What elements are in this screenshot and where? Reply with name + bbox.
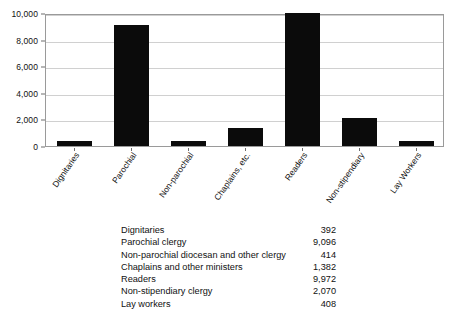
y-axis-tick-label: 2,000 <box>16 116 38 125</box>
table-row: Lay workers408 <box>121 298 336 310</box>
table-cell-label: Non-stipendiary clergy <box>121 285 310 297</box>
table-row: Chaplains and other ministers1,382 <box>121 261 336 273</box>
table-row: Non-parochial diocesan and other clergy4… <box>121 249 336 261</box>
x-axis-tick-label-text: Non-parochial <box>157 151 195 200</box>
table-cell-label: Dignitaries <box>121 224 310 236</box>
gridline <box>46 95 443 96</box>
table-cell-label: Readers <box>121 273 310 285</box>
y-axis-tick-label: 8,000 <box>16 36 38 45</box>
y-axis-tick-label: 4,000 <box>16 90 38 99</box>
table-cell-value: 2,070 <box>310 285 336 297</box>
table-cell-label: Parochial clergy <box>121 236 310 248</box>
y-axis-tick-label: 10,000 <box>11 10 38 19</box>
x-axis-tick-label-text: Parochial <box>110 151 138 185</box>
gridline <box>46 68 443 69</box>
bar <box>285 13 319 146</box>
table-cell-label: Lay workers <box>121 298 310 310</box>
table-row: Dignitaries392 <box>121 224 336 236</box>
table-cell-value: 1,382 <box>310 261 336 273</box>
table-row: Readers9,972 <box>121 273 336 285</box>
table-cell-value: 9,972 <box>310 273 336 285</box>
bar-chart-figure: 02,0004,0006,0008,00010,000 DignitariesP… <box>0 0 460 215</box>
table-row: Non-stipendiary clergy2,070 <box>121 285 336 297</box>
gridline <box>46 42 443 43</box>
table-cell-label: Non-parochial diocesan and other clergy <box>121 249 310 261</box>
table-cell-value: 392 <box>310 224 336 236</box>
x-axis: DignitariesParochialNon-parochialChaplai… <box>45 148 444 215</box>
y-axis-tick-label: 6,000 <box>16 63 38 72</box>
table-cell-value: 408 <box>310 298 336 310</box>
x-axis-tick-label-text: Chaplains, etc. <box>212 151 252 202</box>
gridline <box>46 15 443 16</box>
data-table-body: Dignitaries392Parochial clergy9,096Non-p… <box>121 224 336 310</box>
table-cell-label: Chaplains and other ministers <box>121 261 310 273</box>
table-cell-value: 9,096 <box>310 236 336 248</box>
table-row: Parochial clergy9,096 <box>121 236 336 248</box>
x-axis-tick-label-text: Readers <box>283 151 309 182</box>
table-cell-value: 414 <box>310 249 336 261</box>
x-axis-tick-label-text: Non-stipendiary <box>324 151 366 205</box>
x-axis-tick-label-text: Dignitaries <box>50 151 80 189</box>
bar <box>114 25 148 146</box>
data-table: Dignitaries392Parochial clergy9,096Non-p… <box>121 224 336 310</box>
y-axis-tick-label: 0 <box>33 143 38 152</box>
y-axis: 02,0004,0006,0008,00010,000 <box>0 14 45 147</box>
x-axis-tick-label-text: Lay Workers <box>388 151 423 195</box>
